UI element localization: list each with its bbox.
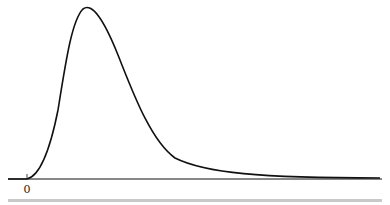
x-tick-label-origin: 0 bbox=[24, 183, 31, 196]
density-chart bbox=[0, 0, 390, 205]
density-curve bbox=[8, 8, 380, 179]
bottom-rule bbox=[8, 199, 382, 202]
